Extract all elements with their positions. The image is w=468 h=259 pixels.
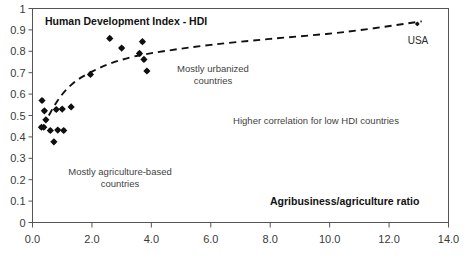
- annotation-correlation: Higher correlation for low HDI countries: [233, 115, 399, 126]
- y-axis-tick-labels: 00.10.20.30.40.50.60.70.80.91: [10, 3, 25, 229]
- y-tick-label: 0.7: [10, 67, 25, 79]
- y-tick-label: 1: [19, 3, 25, 15]
- y-tick-label: 0.3: [10, 152, 25, 164]
- data-point-core: [43, 109, 47, 113]
- y-tick-label: 0.5: [10, 110, 25, 122]
- data-point-core: [52, 140, 56, 144]
- y-tick-label: 0.4: [10, 131, 25, 143]
- x-tick-label: 10.0: [319, 233, 340, 245]
- y-tick-label: 0: [19, 217, 25, 229]
- x-tick-label: 4.0: [144, 233, 159, 245]
- data-point-core: [44, 118, 48, 122]
- data-point-core: [142, 58, 146, 62]
- annotation-agriculture-line2: countries: [101, 178, 140, 189]
- annotation-urbanized-line1: Mostly urbanized: [177, 63, 249, 74]
- data-point-core: [42, 125, 46, 129]
- data-point-core: [141, 40, 145, 44]
- data-point-core: [69, 105, 73, 109]
- data-point-core: [145, 69, 149, 73]
- x-tick-label: 14.0: [438, 233, 459, 245]
- y-tick-label: 0.1: [10, 195, 25, 207]
- x-tick-label: 12.0: [378, 233, 399, 245]
- annotation-urbanized-line2: countries: [194, 75, 233, 86]
- x-axis-title: Agribusiness/agriculture ratio: [270, 195, 419, 207]
- annotation-agriculture-line1: Mostly agriculture-based: [68, 166, 172, 177]
- hdi-agribusiness-scatter-chart: 00.10.20.30.40.50.60.70.80.91 0.02.04.06…: [0, 0, 468, 259]
- figure-caption-clipped: [0, 249, 468, 259]
- data-point-core: [54, 108, 58, 112]
- data-point-core: [89, 73, 93, 77]
- figure-container: 00.10.20.30.40.50.60.70.80.91 0.02.04.06…: [0, 0, 468, 259]
- data-point-core: [108, 37, 112, 41]
- data-point-core: [40, 99, 44, 103]
- x-axis-tick-labels: 0.02.04.06.08.010.012.014.0: [25, 233, 459, 245]
- x-axis-tickmarks: [33, 223, 449, 228]
- x-tick-label: 0.0: [25, 233, 40, 245]
- y-tick-label: 0.9: [10, 24, 25, 36]
- usa-point-label: USA: [408, 35, 429, 46]
- y-axis-tickmarks: [29, 9, 33, 223]
- data-point-core: [416, 23, 419, 26]
- y-tick-label: 0.2: [10, 174, 25, 186]
- x-tick-label: 8.0: [263, 233, 278, 245]
- data-point-core: [60, 107, 64, 111]
- data-point-core: [138, 52, 142, 56]
- data-point-core: [62, 129, 66, 133]
- data-point-core: [48, 129, 52, 133]
- y-tick-label: 0.8: [10, 45, 25, 57]
- data-point-core: [120, 46, 124, 50]
- y-tick-label: 0.6: [10, 88, 25, 100]
- x-tick-label: 2.0: [84, 233, 99, 245]
- data-point-core: [56, 128, 60, 132]
- x-tick-label: 6.0: [203, 233, 218, 245]
- chart-title: Human Development Index - HDI: [45, 15, 207, 27]
